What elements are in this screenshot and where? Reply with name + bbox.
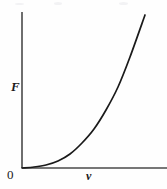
force-velocity-curve bbox=[22, 15, 145, 168]
x-axis-label: v bbox=[86, 170, 91, 182]
force-velocity-figure: F v 0 bbox=[0, 0, 167, 189]
plot-canvas bbox=[0, 0, 167, 189]
y-axis-label: F bbox=[11, 80, 20, 93]
origin-label: 0 bbox=[7, 168, 14, 181]
